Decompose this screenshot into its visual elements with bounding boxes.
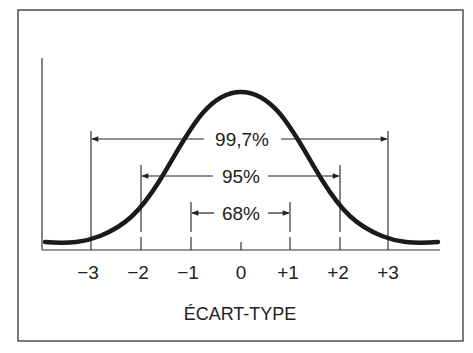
- normal-distribution-figure: 99,7% 95% 68% −3 −2 −1 0 +1 +2 +3 ÉCART-…: [0, 0, 473, 353]
- x-tick-labels: −3 −2 −1 0 +1 +2 +3: [77, 262, 399, 283]
- tick-label-m1: −1: [177, 262, 199, 283]
- interval-997-label: 99,7%: [215, 129, 269, 150]
- tick-label-p3: +3: [377, 262, 399, 283]
- interval-68-label: 68%: [222, 203, 260, 224]
- tick-label-m2: −2: [127, 262, 149, 283]
- interval-95-label: 95%: [222, 166, 260, 187]
- tick-label-0: 0: [236, 262, 247, 283]
- tick-label-m3: −3: [77, 262, 99, 283]
- x-axis-title: ÉCART-TYPE: [184, 304, 297, 324]
- tick-label-p1: +1: [277, 262, 299, 283]
- tick-label-p2: +2: [327, 262, 349, 283]
